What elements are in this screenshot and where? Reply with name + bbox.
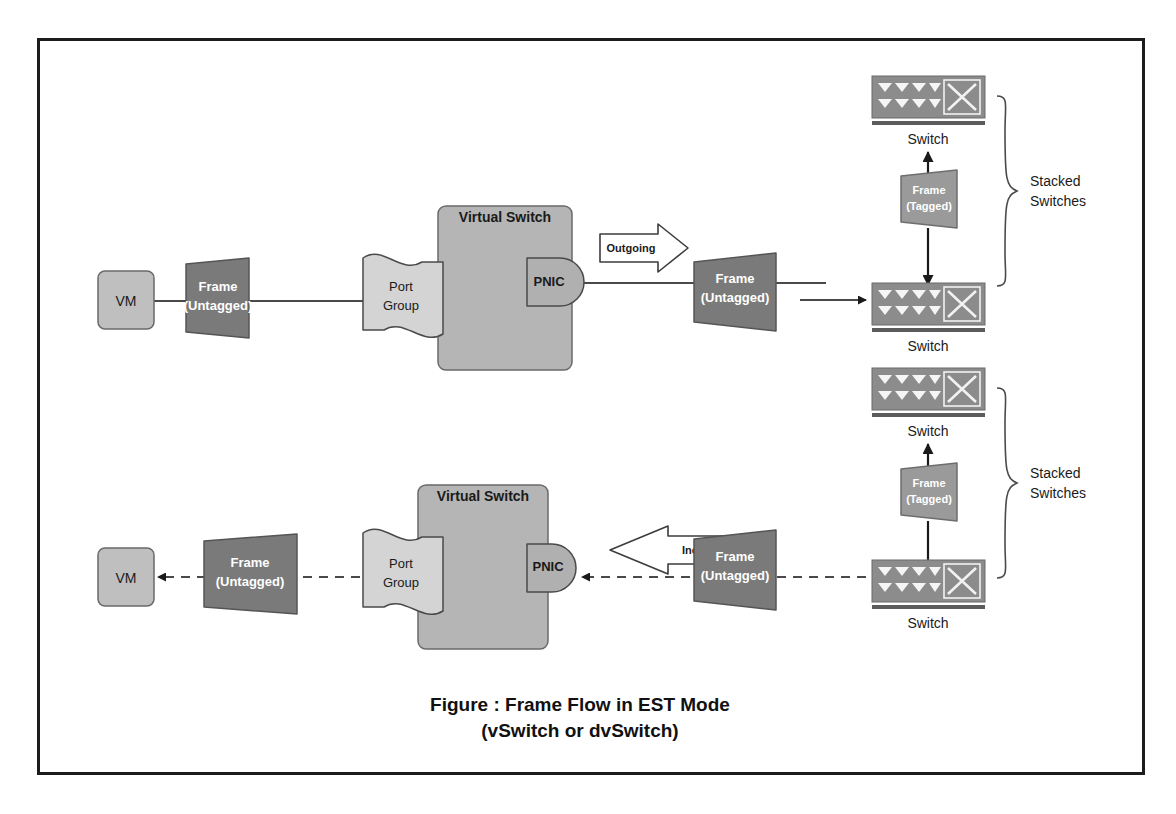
stacked-switches-line1-incoming: Stacked <box>1030 465 1081 481</box>
frame-untagged-right-line2: (Untagged) <box>701 290 770 305</box>
switch-top-label-incoming: Switch <box>907 423 948 439</box>
switch-icon-bottom[interactable] <box>872 283 985 332</box>
stacked-switches-line2-incoming: Switches <box>1030 485 1086 501</box>
switch-bottom-label-incoming: Switch <box>907 615 948 631</box>
port-group-line2: Group <box>383 298 419 313</box>
switch-icon-top[interactable] <box>872 76 985 125</box>
incoming-flow: VM Frame (Untagged) Virtual Switch Port … <box>98 368 1086 649</box>
port-group-line1: Port <box>389 279 413 294</box>
frame-untagged-left-line2: (Untagged) <box>184 298 253 313</box>
frame-untagged-left-line1-incoming: Frame <box>230 555 269 570</box>
pnic-label-incoming: PNIC <box>532 559 564 574</box>
port-group-shape-incoming[interactable] <box>363 529 443 614</box>
pnic-label: PNIC <box>533 274 565 289</box>
outgoing-flow: VM Frame (Untagged) Virtual Switch Port … <box>98 76 1086 370</box>
virtual-switch-label-incoming: Virtual Switch <box>437 488 529 504</box>
frame-untagged-left-line1: Frame <box>198 279 237 294</box>
switch-bottom-label: Switch <box>907 338 948 354</box>
figure-caption-line2: (vSwitch or dvSwitch) <box>481 720 678 741</box>
stacked-switches-line2: Switches <box>1030 193 1086 209</box>
stacked-switches-line1: Stacked <box>1030 173 1081 189</box>
switch-top-label: Switch <box>907 131 948 147</box>
frame-tagged-line2-incoming: (Tagged) <box>906 493 952 505</box>
outgoing-callout-label: Outgoing <box>607 242 656 254</box>
figure-caption-line1: Figure : Frame Flow in EST Mode <box>430 694 730 715</box>
vm-label-incoming: VM <box>116 570 137 586</box>
frame-tagged-line1: Frame <box>912 184 945 196</box>
frame-tagged-line1-incoming: Frame <box>912 477 945 489</box>
frame-untagged-right-line1: Frame <box>715 271 754 286</box>
port-group-line1-incoming: Port <box>389 556 413 571</box>
stacked-switches-brace <box>997 96 1017 286</box>
port-group-shape[interactable] <box>363 254 443 337</box>
frame-untagged-right-line1-incoming: Frame <box>715 549 754 564</box>
figure-root: VM Frame (Untagged) Virtual Switch Port … <box>0 0 1176 814</box>
frame-untagged-left-line2-incoming: (Untagged) <box>216 574 285 589</box>
frame-untagged-right-line2-incoming: (Untagged) <box>701 568 770 583</box>
switch-icon-bottom-incoming[interactable] <box>872 560 985 609</box>
virtual-switch-label: Virtual Switch <box>459 209 551 225</box>
stacked-switches-brace-incoming <box>997 388 1017 578</box>
diagram-canvas: VM Frame (Untagged) Virtual Switch Port … <box>0 0 1176 814</box>
port-group-line2-incoming: Group <box>383 575 419 590</box>
vm-label: VM <box>116 293 137 309</box>
switch-icon-top-incoming[interactable] <box>872 368 985 417</box>
frame-tagged-line2: (Tagged) <box>906 200 952 212</box>
